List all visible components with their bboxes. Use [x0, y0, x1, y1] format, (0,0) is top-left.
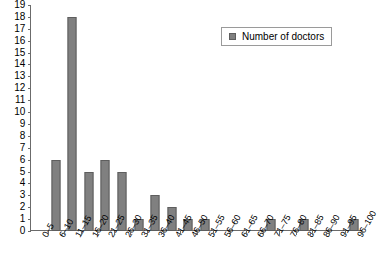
x-axis-tick-mark	[345, 231, 346, 235]
bar-slot	[81, 5, 98, 231]
chart-legend: Number of doctors	[221, 27, 332, 46]
x-axis-tick-mark	[213, 231, 214, 235]
x-axis-tick-mark	[263, 231, 264, 235]
y-axis-tick-label: 8	[20, 130, 25, 142]
x-axis-tick-mark	[114, 231, 115, 235]
x-axis-tick-mark	[147, 231, 148, 235]
bar	[51, 160, 60, 231]
x-axis-tick-mark	[130, 231, 131, 235]
y-axis-tick-label: 3	[20, 189, 25, 201]
bar-slot	[130, 5, 147, 231]
y-axis-tick-label: 2	[20, 201, 25, 213]
y-axis-tick-label: 10	[14, 106, 25, 118]
y-axis-tick-label: 0	[20, 225, 25, 237]
bar-slot	[114, 5, 131, 231]
bar-slot	[147, 5, 164, 231]
x-axis-tick-mark	[180, 231, 181, 235]
y-axis-tick-label: 4	[20, 177, 25, 189]
x-axis-tick-mark	[312, 231, 313, 235]
y-axis-tick-label: 7	[20, 142, 25, 154]
y-axis-tick-label: 12	[14, 82, 25, 94]
bar-slot	[345, 5, 362, 231]
x-axis-tick-mark	[246, 231, 247, 235]
x-axis-tick-mark	[97, 231, 98, 235]
y-axis-tick-mark	[28, 231, 31, 232]
bar-slot	[197, 5, 214, 231]
y-axis-tick-label: 19	[14, 0, 25, 11]
x-axis-tick-mark	[48, 231, 49, 235]
y-axis: 191817161514131211109876543210	[0, 0, 31, 232]
legend-label: Number of doctors	[242, 31, 324, 43]
x-axis-tick-mark	[296, 231, 297, 235]
y-axis-tick-label: 17	[14, 23, 25, 35]
y-axis-tick-label: 16	[14, 35, 25, 47]
y-axis-tick-label: 15	[14, 47, 25, 59]
bar-slot	[163, 5, 180, 231]
y-axis-tick-label: 11	[15, 94, 25, 106]
x-axis-tick-mark	[163, 231, 164, 235]
y-axis-tick-label: 5	[20, 166, 25, 178]
x-axis-labels: 0–56–1011–1516–2021–2526–3031–3536–4041–…	[31, 234, 362, 278]
x-axis-tick-mark	[197, 231, 198, 235]
x-axis-tick-mark	[279, 231, 280, 235]
bar-slot	[31, 5, 48, 231]
bar-slot	[48, 5, 65, 231]
y-axis-tick-label: 9	[20, 118, 25, 130]
legend-swatch-icon	[229, 33, 236, 40]
bar	[68, 17, 77, 231]
y-axis-tick-label: 1	[20, 213, 25, 225]
y-axis-tick-label: 18	[14, 11, 25, 23]
x-axis-tick-mark	[329, 231, 330, 235]
x-axis-tick-mark	[230, 231, 231, 235]
y-axis-tick-label: 13	[14, 70, 25, 82]
y-axis-tick-label: 6	[20, 154, 25, 166]
x-axis-tick-mark	[81, 231, 82, 235]
bar-slot	[64, 5, 81, 231]
x-axis-tick-mark	[362, 231, 363, 235]
bar-slot	[97, 5, 114, 231]
x-axis-tick-mark	[64, 231, 65, 235]
y-axis-tick-label: 14	[14, 58, 25, 70]
bar-slot	[180, 5, 197, 231]
